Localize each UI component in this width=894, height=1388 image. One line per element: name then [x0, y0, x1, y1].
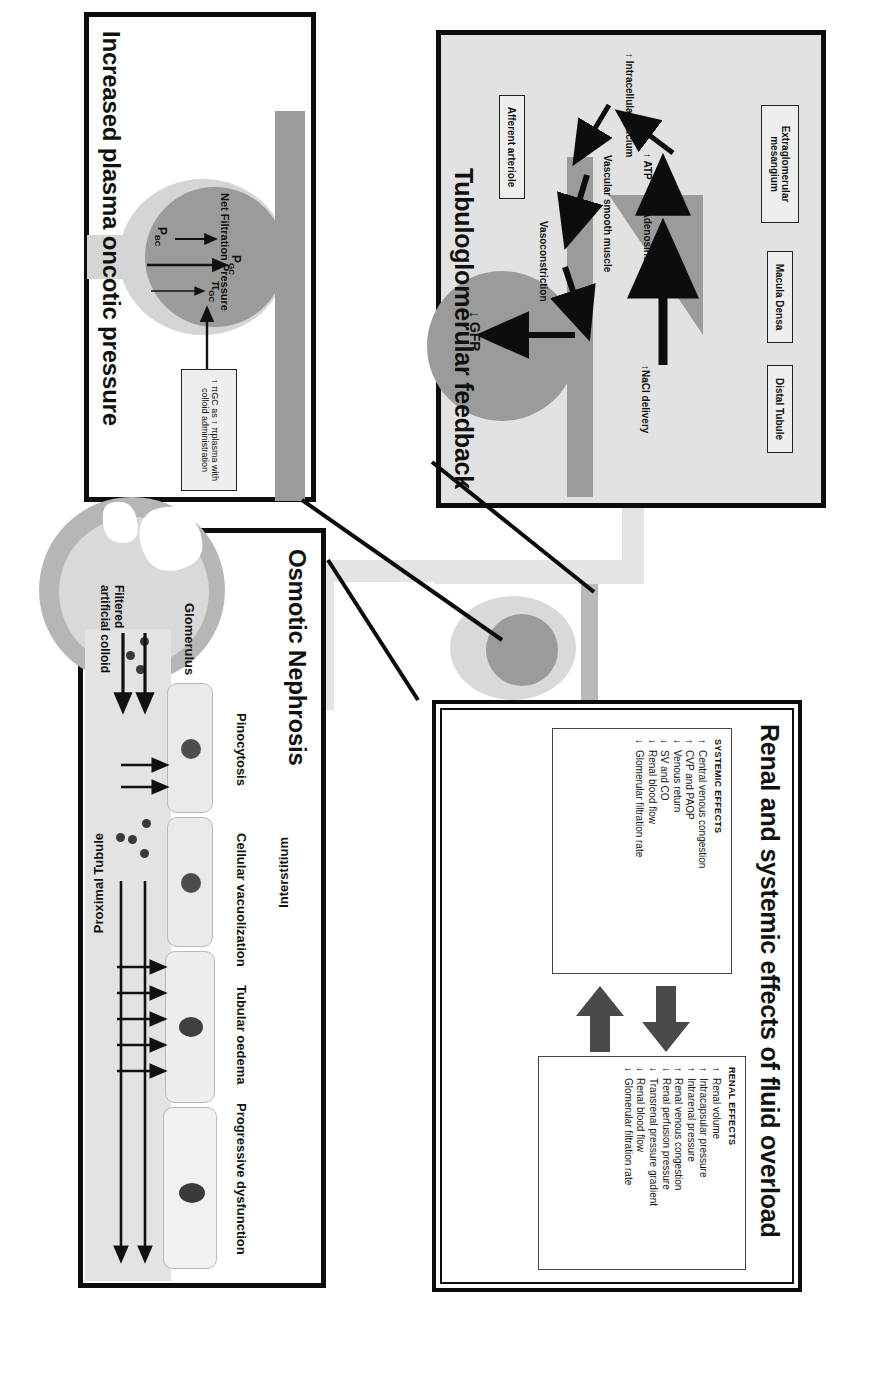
colloid-particle: [128, 835, 137, 844]
p-bc-subscript: BC: [153, 235, 162, 247]
callout-colloid-administration: ↑ πGC as ↑ πplasma with colloid administ…: [181, 369, 237, 491]
panel-osmotic-nephrosis: Osmotic Nephrosis: [78, 528, 326, 1288]
box-extraglomerular-mesangium: Extraglomerular mesangium: [761, 105, 799, 223]
cell-nucleus: [181, 739, 201, 759]
cell-nucleus: [179, 1017, 203, 1037]
colloid-particle: [116, 833, 125, 842]
p-gc-symbol: P: [229, 255, 243, 263]
renal-effect-text: Glomerular filtration rate: [623, 1078, 634, 1185]
cell-nucleus: [179, 1183, 205, 1203]
box-afferent-arteriole: Afferent arteriole: [499, 95, 525, 199]
systemic-effect-text: Venous return: [672, 750, 683, 812]
colloid-particle: [140, 849, 149, 858]
arrow-glyph: ↓: [632, 739, 645, 750]
arrow-glyph: ↑: [684, 1067, 697, 1078]
renal-effects-box: RENAL EFFECTS ↑Renal volume ↑Intracapsul…: [538, 1056, 746, 1270]
arrow-glyph: ↑: [683, 739, 696, 750]
systemic-effects-box: SYSTEMIC EFFECTS ↑Central venous congest…: [552, 728, 732, 974]
label-pinocytosis: Pinocytosis: [234, 713, 249, 786]
renal-effect-row: ↓Renal perfusion pressure: [659, 1067, 672, 1259]
label-intracellular-calcium: ↑ Intracellular calcium: [624, 53, 635, 158]
label-progressive-dysfunction: Progressive dysfunction: [234, 1103, 249, 1255]
box-distal-tubule: Distal Tubule: [767, 365, 793, 453]
renal-effect-row: ↓Glomerular filtration rate: [621, 1067, 634, 1259]
background-arteriole-bar: [581, 584, 598, 708]
label-p-gc: PGC: [227, 255, 243, 275]
panel-title-renal-systemic-effects: Renal and systemic effects of fluid over…: [755, 724, 784, 1238]
systemic-effects-heading: SYSTEMIC EFFECTS: [713, 739, 723, 963]
arteriole-band-oncotic: [275, 111, 305, 501]
figure-stage: Extraglomerular mesangium Macula Densa D…: [0, 0, 894, 1388]
label-interstitium: Interstitium: [276, 837, 291, 908]
background-tubule-stem: [314, 560, 454, 582]
arrow-glyph: ↓: [645, 739, 658, 750]
label-atp: ↑ ATP: [642, 153, 653, 180]
renal-effect-text: Renal blood flow: [635, 1078, 646, 1152]
systemic-effect-row: ↓SV and CO: [658, 739, 671, 963]
renal-effect-row: ↑Intrarenal pressure: [684, 1067, 697, 1259]
systemic-effect-text: Glomerular filtration rate: [634, 750, 645, 857]
systemic-effect-text: Central venous congestion: [697, 750, 708, 868]
panel-increased-plasma-oncotic-pressure: Net Filtration Pressure PBC PGC πGC ↑ πG…: [84, 12, 316, 502]
label-tubular-oedema: Tubular oedema: [234, 985, 249, 1084]
proximal-tubule-lumen: [85, 629, 171, 1281]
background-glomerulus: [486, 614, 558, 686]
renal-effect-text: Intracapsular pressure: [698, 1078, 709, 1178]
glomerulus-circle-oncotic: [145, 187, 285, 327]
label-p-bc: PBC: [153, 227, 169, 247]
systemic-effect-row: ↓Venous return: [670, 739, 683, 963]
systemic-effect-row: ↓Renal blood flow: [645, 739, 658, 963]
arrow-glyph: ↓: [670, 739, 683, 750]
colloid-particle: [140, 637, 149, 646]
label-filtered-artificial-colloid: Filtered artificial colloid: [97, 585, 125, 677]
label-adenosine: ↑ Adenosine: [642, 203, 653, 262]
systemic-effect-text: SV and CO: [659, 750, 670, 801]
label-nacl-delivery: ↑NaCl delivery: [640, 365, 651, 433]
renal-effect-row: ↑Intracapsular pressure: [697, 1067, 710, 1259]
panel-title-tubuloglomerular-feedback: Tubuloglomerular feedback: [449, 168, 478, 489]
colloid-particle: [142, 819, 151, 828]
systemic-effect-row: ↓Glomerular filtration rate: [632, 739, 645, 963]
renal-effect-text: Renal volume: [711, 1078, 722, 1139]
arrow-glyph: ↓: [658, 739, 671, 750]
box-extraglomerular-mesangium-label: Extraglomerular mesangium: [769, 109, 791, 219]
renal-effect-row: ↓Transrenal pressure gradient: [646, 1067, 659, 1259]
renal-effect-row: ↑Renal volume: [709, 1067, 722, 1259]
renal-effect-text: Transrenal pressure gradient: [648, 1078, 659, 1206]
renal-effect-row: ↑Renal venous congestion: [672, 1067, 685, 1259]
label-vasoconstriction: Vasoconstriction: [538, 221, 549, 302]
arrow-glyph: ↓: [634, 1067, 647, 1078]
arrow-glyph: ↓: [621, 1067, 634, 1078]
box-macula-densa-label: Macula Densa: [775, 264, 786, 331]
label-glomerulus: Glomerulus: [182, 603, 197, 675]
renal-effect-text: Renal venous congestion: [673, 1078, 684, 1190]
label-proximal-tubule: Proximal Tubule: [91, 833, 106, 933]
p-gc-subscript: GC: [227, 263, 236, 275]
systemic-effect-row: ↑CVP and PAOP: [683, 739, 696, 963]
cell-nucleus: [181, 873, 201, 893]
box-afferent-arteriole-label: Afferent arteriole: [507, 107, 518, 188]
box-macula-densa: Macula Densa: [767, 251, 793, 343]
renal-effect-row: ↓Renal blood flow: [634, 1067, 647, 1259]
systemic-effect-text: Renal blood flow: [647, 750, 658, 824]
label-vascular-smooth-muscle: Vascular smooth muscle: [602, 155, 613, 272]
panel-tubuloglomerular-feedback: Extraglomerular mesangium Macula Densa D…: [436, 30, 826, 508]
label-cellular-vacuolization: Cellular vacuolization: [234, 833, 249, 967]
p-bc-symbol: P: [155, 227, 169, 235]
arrow-glyph: ↑: [695, 739, 708, 750]
arrow-glyph: ↑: [672, 1067, 685, 1078]
arrow-glyph: ↓: [646, 1067, 659, 1078]
callout-colloid-administration-text: ↑ πGC as ↑ πplasma with colloid administ…: [199, 373, 219, 487]
label-pi-gc: πGC: [207, 281, 223, 302]
colloid-particle: [136, 665, 145, 674]
arrow-glyph: ↓: [659, 1067, 672, 1078]
arrow-glyph: ↑: [709, 1067, 722, 1078]
pi-gc-symbol: π: [209, 281, 223, 290]
renal-effect-text: Renal perfusion pressure: [661, 1078, 672, 1190]
panel-title-increased-plasma-oncotic-pressure: Increased plasma oncotic pressure: [97, 31, 125, 426]
background-tubule-trunk: [434, 560, 644, 584]
systemic-effect-row: ↑Central venous congestion: [695, 739, 708, 963]
renal-effect-text: Intrarenal pressure: [686, 1078, 697, 1162]
systemic-effect-text: CVP and PAOP: [684, 750, 695, 820]
pi-gc-subscript: GC: [207, 290, 216, 302]
